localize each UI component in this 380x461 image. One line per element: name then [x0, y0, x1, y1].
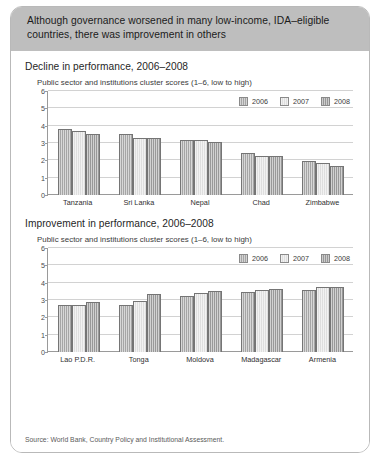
figure-body: Decline in performance, 2006–2008 Public… [11, 52, 369, 452]
category-label: Madagascar [231, 352, 292, 366]
bar-group [292, 248, 353, 352]
chart-panel-improvement: Improvement in performance, 2006–2008 Pu… [11, 209, 369, 366]
bar [330, 166, 344, 195]
bar-group [48, 91, 109, 195]
chart-subtitle-improvement: Public sector and institutions cluster s… [11, 229, 369, 244]
category-labels-improvement: Lao P.D.R.TongaMoldovaMadagascarArmenia [47, 352, 353, 366]
legend-item[interactable]: 2006 [239, 97, 268, 106]
bar [180, 140, 194, 195]
category-label: Chad [231, 195, 292, 209]
legend-label: 2006 [252, 97, 268, 106]
legend-item[interactable]: 2007 [280, 254, 309, 263]
legend-item[interactable]: 2007 [280, 97, 309, 106]
bar [194, 140, 208, 195]
bar [86, 134, 100, 195]
category-label: Tanzania [47, 195, 108, 209]
bar [133, 138, 147, 195]
bar [147, 294, 161, 352]
chart-subtitle-decline: Public sector and institutions cluster s… [11, 72, 369, 87]
category-label: Moldova [169, 352, 230, 366]
figure-card: Although governance worsened in many low… [10, 6, 370, 453]
figure-banner-text: Although governance worsened in many low… [27, 14, 353, 41]
bar-group [170, 91, 231, 195]
bar-group [170, 248, 231, 352]
legend-swatch [321, 254, 330, 263]
bar-group [292, 91, 353, 195]
bar [241, 153, 255, 195]
source-note: Source: World Bank, Country Policy and I… [25, 436, 224, 443]
chart-legend-decline: 200620072008 [239, 97, 350, 106]
bar [316, 163, 330, 195]
chart-plot-area-decline: 0123456 200620072008 TanzaniaSri LankaNe… [37, 91, 353, 209]
legend-label: 2008 [334, 97, 350, 106]
plot-improvement: 0123456 200620072008 [47, 248, 353, 352]
bar-group [109, 91, 170, 195]
legend-label: 2006 [252, 254, 268, 263]
category-label: Lao P.D.R. [47, 352, 108, 366]
bar [269, 289, 283, 352]
bar [194, 293, 208, 352]
legend-label: 2007 [293, 254, 309, 263]
legend-swatch [280, 254, 289, 263]
chart-panel-decline: Decline in performance, 2006–2008 Public… [11, 52, 369, 209]
chart-legend-improvement: 200620072008 [239, 254, 350, 263]
bar [302, 290, 316, 352]
bar [58, 305, 72, 352]
legend-swatch [321, 97, 330, 106]
bar [86, 302, 100, 352]
category-label: Nepal [169, 195, 230, 209]
category-label: Tonga [108, 352, 169, 366]
bar [208, 291, 222, 352]
bar [241, 292, 255, 352]
bar-group [231, 91, 292, 195]
bar-group [231, 248, 292, 352]
chart-title-decline: Decline in performance, 2006–2008 [11, 52, 369, 72]
bar [302, 161, 316, 195]
bar [180, 296, 194, 352]
category-label: Sri Lanka [108, 195, 169, 209]
bar-group [109, 248, 170, 352]
bar [72, 131, 86, 195]
plot-decline: 0123456 200620072008 [47, 91, 353, 195]
bar [58, 129, 72, 195]
bar [269, 156, 283, 195]
bar-group [48, 248, 109, 352]
bar [330, 287, 344, 352]
chart-plot-area-improvement: 0123456 200620072008 Lao P.D.R.TongaMold… [37, 248, 353, 366]
category-label: Zimbabwe [292, 195, 353, 209]
figure-banner: Although governance worsened in many low… [11, 7, 369, 52]
bar [147, 138, 161, 195]
bar [255, 156, 269, 195]
chart-title-improvement: Improvement in performance, 2006–2008 [11, 209, 369, 229]
bar [255, 290, 269, 352]
bar [133, 301, 147, 352]
legend-item[interactable]: 2008 [321, 97, 350, 106]
category-labels-decline: TanzaniaSri LankaNepalChadZimbabwe [47, 195, 353, 209]
legend-item[interactable]: 2008 [321, 254, 350, 263]
category-label: Armenia [292, 352, 353, 366]
bar [316, 287, 330, 352]
bar-groups-decline [48, 91, 353, 195]
bar [119, 134, 133, 195]
bar [119, 305, 133, 352]
legend-label: 2007 [293, 97, 309, 106]
bar [208, 142, 222, 195]
legend-swatch [239, 97, 248, 106]
bar-groups-improvement [48, 248, 353, 352]
legend-label: 2008 [334, 254, 350, 263]
legend-swatch [280, 97, 289, 106]
bar [72, 305, 86, 352]
legend-item[interactable]: 2006 [239, 254, 268, 263]
legend-swatch [239, 254, 248, 263]
